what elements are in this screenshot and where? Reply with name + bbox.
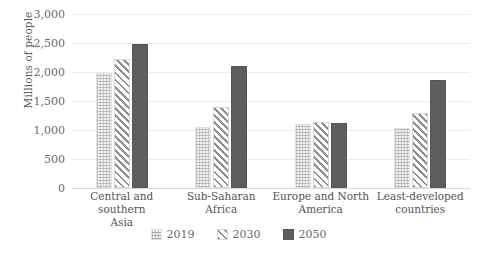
category-label-line: countries <box>371 203 471 216</box>
x-axis-category-labels: Central and southernAsiaSub-SaharanAfric… <box>72 190 470 224</box>
category-label-line: Europe and North <box>271 190 371 203</box>
x-axis-category-label: Central and southernAsia <box>72 190 172 229</box>
legend-label: 2019 <box>167 228 195 241</box>
bars-layer <box>72 14 470 188</box>
x-axis-category-label: Europe and NorthAmerica <box>271 190 371 216</box>
category-label-line: Central and southern <box>72 190 172 216</box>
bar-2019-1 <box>195 127 211 188</box>
legend-item-2019[interactable]: 2019 <box>151 228 195 241</box>
bar-2030-1 <box>213 107 229 188</box>
plot-area <box>72 14 470 188</box>
y-axis-tick-label: 2,000 <box>5 67 65 78</box>
legend-item-2050[interactable]: 2050 <box>283 228 327 241</box>
bar-2019-2 <box>295 124 311 188</box>
legend-item-2030[interactable]: 2030 <box>217 228 261 241</box>
category-label-line: Africa <box>172 203 272 216</box>
bar-2050-0 <box>132 44 148 188</box>
bar-2050-3 <box>430 80 446 188</box>
y-axis-tick-label: 1,500 <box>5 96 65 107</box>
y-axis-tick-label: 3,000 <box>5 9 65 20</box>
legend-swatch-icon <box>151 229 162 240</box>
y-axis-tick-label: 0 <box>5 183 65 194</box>
bar-2030-3 <box>412 113 428 188</box>
bar-2019-0 <box>96 73 112 188</box>
category-label-line: America <box>271 203 371 216</box>
legend-swatch-icon <box>283 229 294 240</box>
x-axis-category-label: Sub-SaharanAfrica <box>172 190 272 216</box>
category-label-line: Sub-Saharan <box>172 190 272 203</box>
bar-2019-3 <box>394 128 410 188</box>
category-label-line: Least-developed <box>371 190 471 203</box>
legend-label: 2050 <box>299 228 327 241</box>
bar-2050-1 <box>231 66 247 188</box>
y-axis-tick-label: 2,500 <box>5 38 65 49</box>
y-axis-tick-label: 1,000 <box>5 125 65 136</box>
bar-2030-0 <box>114 59 130 188</box>
bar-2050-2 <box>331 123 347 188</box>
y-axis-tick-label: 500 <box>5 154 65 165</box>
bar-2030-2 <box>313 122 329 188</box>
x-axis-category-label: Least-developedcountries <box>371 190 471 216</box>
bar-chart: Millions of people 3,0002,5002,0001,5001… <box>0 0 477 254</box>
chart-legend: 201920302050 <box>0 228 477 241</box>
legend-label: 2030 <box>233 228 261 241</box>
gridline <box>72 188 470 189</box>
legend-swatch-icon <box>217 229 228 240</box>
